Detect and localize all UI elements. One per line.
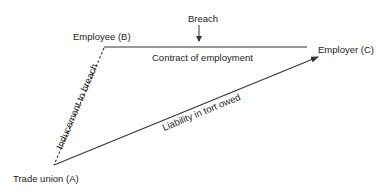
trade-union-node-label: Trade union (A) — [13, 173, 79, 184]
breach-label: Breach — [188, 13, 218, 24]
liability-edge-label: Liability in tort owed — [161, 91, 242, 133]
employee-node-label: Employee (B) — [73, 31, 131, 42]
employer-node-label: Employer (C) — [318, 44, 374, 55]
tort-diagram: Breach Employee (B) Employer (C) Trade u… — [0, 0, 382, 192]
inducement-edge-label: Inducement to breach — [54, 62, 100, 151]
contract-edge-label: Contract of employment — [152, 52, 253, 63]
